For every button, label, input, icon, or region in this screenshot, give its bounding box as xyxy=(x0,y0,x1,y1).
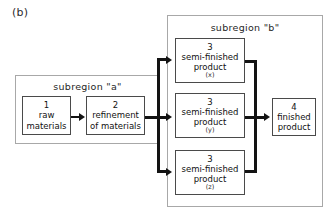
region-subregion-a-title: subregion "a" xyxy=(16,81,159,92)
node-semi-z-line1: semi-finished xyxy=(182,164,239,174)
node-refinement-id: 2 xyxy=(113,100,118,110)
figure-panel-b: (b) subregion "b" subregion "a" 1 raw ma… xyxy=(0,0,328,215)
arrowhead-merge-bus-to-finished-icon xyxy=(264,113,270,121)
node-semi-finished-product-x: 3 semi-finished product (x) xyxy=(175,38,245,83)
node-raw-materials: 1 raw materials xyxy=(22,96,71,135)
node-semi-z-sub: (z) xyxy=(206,184,214,192)
node-finished-line1: finished xyxy=(277,112,311,122)
node-semi-finished-product-y: 3 semi-finished product (y) xyxy=(175,93,245,138)
arrowhead-bus-to-semi-x-icon xyxy=(166,56,172,64)
node-refinement-of-materials: 2 refinement of materials xyxy=(86,96,145,135)
node-semi-finished-product-z: 3 semi-finished product (z) xyxy=(175,150,245,195)
node-semi-y-line1: semi-finished xyxy=(182,107,239,117)
node-finished-id: 4 xyxy=(291,102,296,112)
node-refinement-line1: refinement xyxy=(92,110,139,120)
arrowhead-bus-to-semi-z-icon xyxy=(166,168,172,176)
node-semi-x-line1: semi-finished xyxy=(182,52,239,62)
node-finished-product: 4 finished product xyxy=(272,98,316,136)
node-raw-materials-line1: raw xyxy=(39,110,55,120)
panel-label: (b) xyxy=(12,6,28,19)
arrowhead-raw-to-refinement-icon xyxy=(79,113,85,121)
node-raw-materials-line2: materials xyxy=(27,121,67,131)
node-semi-z-id: 3 xyxy=(207,154,212,164)
node-finished-line2: product xyxy=(278,122,311,132)
node-semi-x-id: 3 xyxy=(207,42,212,52)
node-refinement-line2: of materials xyxy=(90,121,141,131)
node-raw-materials-id: 1 xyxy=(44,100,49,110)
region-subregion-b-title: subregion "b" xyxy=(168,22,322,33)
node-semi-y-sub: (y) xyxy=(206,127,215,135)
node-semi-x-sub: (x) xyxy=(206,72,215,80)
node-semi-y-id: 3 xyxy=(207,97,212,107)
arrowhead-bus-to-semi-y-icon xyxy=(166,113,172,121)
